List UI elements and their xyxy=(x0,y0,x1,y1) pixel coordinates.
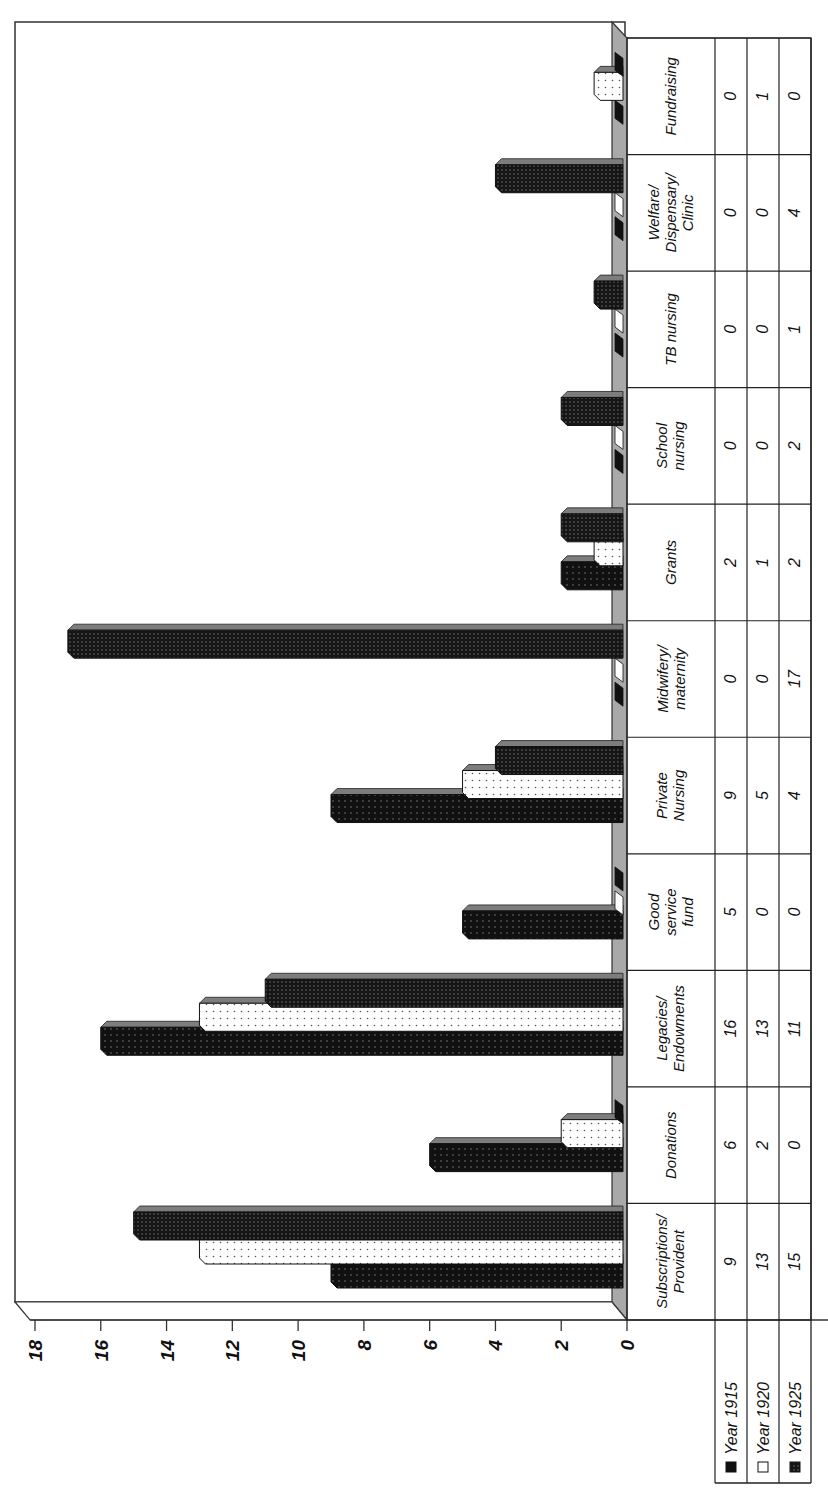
plot-frame xyxy=(15,22,627,1320)
table-cell-value: 0 xyxy=(754,908,771,917)
table-cell-value: 2 xyxy=(754,1141,771,1151)
table-cell-value: 4 xyxy=(786,208,803,217)
table-cell-value: 13 xyxy=(754,1020,771,1038)
table-cell-value: 9 xyxy=(722,791,739,800)
table-cell-value: 0 xyxy=(722,325,739,334)
axis-tick-label: 4 xyxy=(485,1340,506,1352)
category-label: Legacies/ xyxy=(654,995,671,1061)
axis-tick-label: 14 xyxy=(157,1340,178,1362)
table-cell-value: 0 xyxy=(754,325,771,334)
axis-tick-label: 0 xyxy=(617,1340,638,1351)
axis-tick-label: 16 xyxy=(91,1340,112,1362)
category-label: Subscriptions/ xyxy=(654,1213,671,1309)
category-label: Nursing xyxy=(671,769,688,821)
chart: 024681012141618 Subscriptions/Provident9… xyxy=(0,0,828,1499)
axis-tick-label: 10 xyxy=(288,1340,309,1362)
table-cell-value: 17 xyxy=(786,669,803,688)
axis-tick-label: 18 xyxy=(25,1340,46,1362)
table-cell-value: 0 xyxy=(722,208,739,217)
table-cell-value: 11 xyxy=(786,1020,803,1037)
table-cell-value: 1 xyxy=(754,558,771,567)
table-cell-value: 0 xyxy=(786,1141,803,1150)
table-cell-value: 16 xyxy=(722,1020,739,1038)
category-label: fund xyxy=(679,897,696,927)
table-cell-value: 0 xyxy=(722,92,739,101)
table-cell-value: 2 xyxy=(786,441,803,451)
bar xyxy=(265,973,623,1007)
table-cell-value: 0 xyxy=(754,208,771,217)
table-cell-value: 5 xyxy=(722,908,739,917)
bar xyxy=(495,159,623,193)
category-label: Fundraising xyxy=(662,56,679,135)
axis-bevel xyxy=(15,1302,627,1320)
category-label: Endowments xyxy=(671,985,688,1072)
legend-swatch xyxy=(790,1462,800,1472)
table-cell-value: 1 xyxy=(786,325,803,334)
category-label: Provident xyxy=(671,1229,688,1293)
category-label: Midwifery/ xyxy=(654,643,671,712)
legend-label: Year 1925 xyxy=(787,1382,804,1455)
category-label: School xyxy=(654,422,671,469)
axis-tick-label: 6 xyxy=(420,1340,441,1351)
category-label: maternity xyxy=(671,647,688,710)
legend-label: Year 1920 xyxy=(755,1382,772,1455)
table-cell-value: 4 xyxy=(786,791,803,800)
category-label: Grants xyxy=(662,539,679,585)
table-cell-value: 2 xyxy=(722,558,739,568)
category-label: Clinic xyxy=(679,194,696,231)
value-axis: 024681012141618 xyxy=(25,1320,828,1361)
bar xyxy=(561,391,623,425)
table-cell-value: 13 xyxy=(754,1253,771,1271)
category-label: Donations xyxy=(662,1111,679,1179)
table-cell-value: 6 xyxy=(722,1141,739,1150)
table-cell-value: 15 xyxy=(786,1253,803,1271)
bar xyxy=(463,905,623,939)
category-label: Dispensary/ xyxy=(662,171,679,252)
table-cell-value: 0 xyxy=(722,674,739,683)
category-label: TB nursing xyxy=(662,292,679,365)
legend-swatch xyxy=(726,1462,736,1472)
bar xyxy=(68,624,623,658)
category-label: Welfare/ xyxy=(645,183,662,240)
bar xyxy=(561,1114,623,1148)
bar xyxy=(594,275,623,309)
bar xyxy=(561,508,623,542)
table-cell-value: 2 xyxy=(786,558,803,568)
table-cell-value: 0 xyxy=(754,441,771,450)
table-cell-value: 0 xyxy=(722,441,739,450)
table-cell-value: 1 xyxy=(754,92,771,101)
axis-tick-label: 12 xyxy=(222,1340,243,1362)
data-table: Subscriptions/Provident91315Donations620… xyxy=(627,38,811,1483)
plot-back-wall xyxy=(15,22,625,1302)
table-cell-value: 0 xyxy=(754,674,771,683)
category-label: service xyxy=(662,888,679,936)
category-label: Good xyxy=(645,893,662,930)
table-cell-value: 0 xyxy=(786,92,803,101)
table-cell-value: 5 xyxy=(754,791,771,800)
table-cell-value: 9 xyxy=(722,1257,739,1266)
table-cell-value: 0 xyxy=(786,908,803,917)
axis-tick-label: 8 xyxy=(354,1340,375,1351)
axis-tick-label: 2 xyxy=(551,1340,572,1352)
legend-label: Year 1915 xyxy=(723,1382,740,1455)
category-label: nursing xyxy=(671,421,688,471)
bar xyxy=(495,741,623,775)
bar xyxy=(134,1206,623,1240)
legend-swatch xyxy=(758,1462,768,1472)
category-label: Private xyxy=(654,772,671,819)
